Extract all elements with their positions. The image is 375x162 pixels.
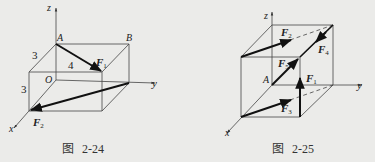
figure-2-24-caption: 图2-24 (62, 143, 104, 155)
force-f3-label: F3 (281, 103, 292, 116)
diagram-canvas (0, 0, 375, 162)
point-a-label: A (263, 75, 269, 85)
dimension-depth: 3 (32, 50, 38, 61)
figure-2-25-caption: 图2-25 (272, 143, 314, 155)
dimension-width: 4 (68, 60, 74, 71)
point-b-label: B (126, 33, 132, 43)
x-axis-label: x (225, 128, 229, 138)
figure-2-25 (227, 12, 362, 133)
figure-2-24 (14, 8, 155, 128)
z-axis-label: z (47, 3, 51, 13)
point-a-label: A (57, 33, 63, 43)
force-f2-arrow (241, 40, 291, 57)
force-f1-label: F1 (96, 57, 107, 70)
origin-label: O (45, 75, 52, 85)
force-f2-label: F2 (33, 117, 44, 130)
y-axis-label: y (357, 80, 362, 91)
y-axis-label: y (152, 78, 157, 89)
force-f2-arrow (31, 83, 129, 110)
y-axis (56, 80, 155, 83)
x-axis-label: x (9, 124, 13, 134)
force-f5-label: F5 (278, 58, 289, 71)
dimension-height: 3 (21, 84, 27, 95)
f2-line-of-action (290, 25, 333, 40)
box-edges (29, 44, 129, 111)
z-axis-label: z (264, 11, 268, 21)
force-f4-label: F4 (318, 44, 329, 57)
force-f2-label: F2 (281, 27, 292, 40)
force-f1-arrow (56, 44, 101, 71)
force-f1-label: F1 (306, 73, 317, 86)
force-f4-arrow (316, 32, 326, 42)
f3-line-of-action (290, 85, 333, 100)
